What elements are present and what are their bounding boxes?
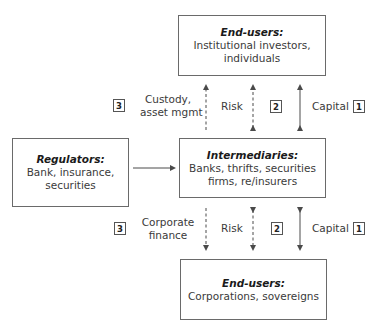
lower-capital-label: Capital — [312, 222, 349, 235]
bottom-end-users-box: End-users: Corporations, sovereigns — [180, 259, 327, 320]
label-line: finance — [140, 229, 196, 242]
box-title: End-users: — [221, 26, 284, 39]
box-title: Intermediaries: — [207, 149, 298, 162]
box-desc: securities — [45, 179, 96, 192]
box-desc: Institutional investors, — [193, 39, 310, 52]
intermediaries-box: Intermediaries: Banks, thrifts, securiti… — [179, 138, 326, 198]
label-line: asset mgmt — [140, 106, 196, 119]
upper-capital-label: Capital — [312, 100, 349, 113]
lower-service-label: Corporate finance — [140, 216, 196, 242]
upper-capital-badge: 1 — [353, 100, 365, 113]
top-end-users-box: End-users: Institutional investors, indi… — [178, 15, 326, 76]
box-desc: individuals — [224, 52, 280, 65]
label-line: Corporate — [140, 216, 196, 229]
lower-capital-badge: 1 — [353, 222, 365, 235]
box-title: End-users: — [222, 277, 285, 290]
upper-service-badge: 3 — [113, 99, 125, 112]
lower-risk-badge: 2 — [271, 222, 283, 235]
upper-risk-badge: 2 — [270, 100, 282, 113]
box-title: Regulators: — [36, 153, 104, 166]
lower-service-badge: 3 — [114, 222, 126, 235]
regulators-box: Regulators: Bank, insurance, securities — [12, 138, 129, 207]
upper-risk-label: Risk — [221, 100, 243, 113]
box-desc: Banks, thrifts, securities — [189, 162, 316, 175]
box-desc: Bank, insurance, — [27, 166, 115, 179]
lower-risk-label: Risk — [221, 222, 243, 235]
upper-service-label: Custody, asset mgmt — [140, 93, 196, 119]
box-desc: firms, re/insurers — [208, 175, 297, 188]
box-desc: Corporations, sovereigns — [188, 290, 319, 303]
label-line: Custody, — [140, 93, 196, 106]
